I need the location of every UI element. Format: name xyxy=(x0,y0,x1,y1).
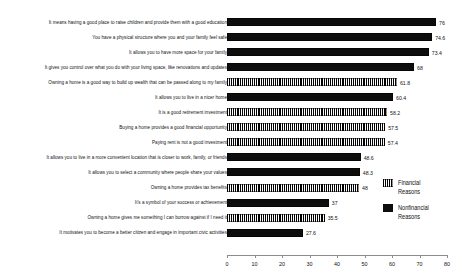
category-label: It allows you to live in a more convenie… xyxy=(3,152,227,163)
chart-row: It allows you to live in a nicer home60.… xyxy=(0,91,462,106)
x-axis-tick xyxy=(447,255,448,258)
bar-nonfinancial xyxy=(227,33,432,41)
x-axis-tick-label: 0 xyxy=(226,260,229,268)
legend-label-line1: Financial xyxy=(398,178,462,187)
bar-value-label: 60.4 xyxy=(396,93,406,102)
category-label: Owning a home provides tax benefits xyxy=(3,182,227,193)
chart-row: It means having a good place to raise ch… xyxy=(0,16,462,31)
bar-value-label: 35.5 xyxy=(328,213,338,222)
bar-value-label: 27.6 xyxy=(306,228,316,237)
x-axis: 01020304050607080 xyxy=(227,255,447,256)
x-axis-tick xyxy=(282,255,283,258)
bar-value-label: 58.2 xyxy=(390,108,400,117)
bar-value-label: 76 xyxy=(439,18,445,27)
bar-financial xyxy=(227,78,397,86)
bar-value-label: 48.3 xyxy=(363,168,373,177)
chart-row: You have a physical structure where you … xyxy=(0,31,462,46)
bar-value-label: 48 xyxy=(362,183,368,192)
bar-nonfinancial xyxy=(227,199,329,207)
category-label: It motivates you to become a better citi… xyxy=(3,227,227,238)
x-axis-tick-label: 60 xyxy=(389,260,395,268)
chart-row: It motivates you to become a better citi… xyxy=(0,227,462,242)
legend-swatch-financial xyxy=(383,179,393,187)
category-label: Buying a home provides a good financial … xyxy=(3,122,227,133)
chart-row: Buying a home provides a good financial … xyxy=(0,121,462,136)
category-label: Paying rent is not a good investment xyxy=(3,137,227,148)
bar-value-label: 57.5 xyxy=(388,123,398,132)
category-label: It means having a good place to raise ch… xyxy=(3,17,227,28)
x-axis-tick-label: 40 xyxy=(334,260,340,268)
bar-value-label: 48.6 xyxy=(364,153,374,162)
category-label: It is a good retirement investment xyxy=(3,107,227,118)
bar-value-label: 37 xyxy=(332,198,338,207)
category-label: It's a symbol of your success or achieve… xyxy=(3,197,227,208)
x-axis-tick xyxy=(365,255,366,258)
chart-row: Owning a home is a good way to build up … xyxy=(0,76,462,91)
legend-label-line1: Nonfinancial xyxy=(398,203,462,212)
bar-nonfinancial xyxy=(227,153,361,161)
legend-label: FinancialReasons xyxy=(398,178,462,196)
bar-nonfinancial xyxy=(227,229,303,237)
bar-financial xyxy=(227,184,359,192)
chart-row: It is a good retirement investment58.2 xyxy=(0,106,462,121)
bar-value-label: 57.4 xyxy=(388,138,398,147)
bar-financial xyxy=(227,123,385,131)
chart-row: It allows you to have more space for you… xyxy=(0,46,462,61)
x-axis-tick-label: 10 xyxy=(252,260,258,268)
x-axis-tick xyxy=(227,255,228,258)
category-label: Owning a home is a good way to build up … xyxy=(3,77,227,88)
legend-label-line2: Reasons xyxy=(398,187,462,196)
x-axis-tick-label: 50 xyxy=(362,260,368,268)
bar-financial xyxy=(227,138,385,146)
legend-swatch-nonfinancial xyxy=(383,204,393,212)
legend-label: NonfinancialReasons xyxy=(398,203,462,221)
legend-label-line2: Reasons xyxy=(398,212,462,221)
bar-nonfinancial xyxy=(227,93,393,101)
chart-row: Owning a home gives me something I can b… xyxy=(0,212,462,227)
bar-chart: It means having a good place to raise ch… xyxy=(0,0,462,279)
chart-row: It allows you to live in a more convenie… xyxy=(0,151,462,166)
category-label: You have a physical structure where you … xyxy=(3,32,227,43)
bar-value-label: 68 xyxy=(417,63,423,72)
bar-nonfinancial xyxy=(227,168,360,176)
bar-nonfinancial xyxy=(227,18,436,26)
bar-nonfinancial xyxy=(227,63,414,71)
bar-financial xyxy=(227,214,325,222)
x-axis-tick xyxy=(255,255,256,258)
bar-financial xyxy=(227,108,387,116)
category-label: It allows you to have more space for you… xyxy=(3,47,227,58)
category-label: It allows you to select a community wher… xyxy=(3,167,227,178)
x-axis-tick-label: 80 xyxy=(444,260,450,268)
x-axis-tick xyxy=(337,255,338,258)
x-axis-tick xyxy=(310,255,311,258)
bar-value-label: 74.6 xyxy=(435,33,445,42)
category-label: It gives you control over what you do wi… xyxy=(3,62,227,73)
category-label: Owning a home gives me something I can b… xyxy=(3,212,227,223)
chart-row: It gives you control over what you do wi… xyxy=(0,61,462,76)
x-axis-tick xyxy=(420,255,421,258)
category-label: It allows you to live in a nicer home xyxy=(3,92,227,103)
x-axis-tick-label: 20 xyxy=(279,260,285,268)
x-axis-tick xyxy=(392,255,393,258)
x-axis-tick-label: 30 xyxy=(307,260,313,268)
bar-value-label: 61.8 xyxy=(400,78,410,87)
bar-nonfinancial xyxy=(227,48,429,56)
chart-row: Paying rent is not a good investment57.4 xyxy=(0,136,462,151)
bar-value-label: 73.4 xyxy=(432,48,442,57)
x-axis-tick-label: 70 xyxy=(417,260,423,268)
